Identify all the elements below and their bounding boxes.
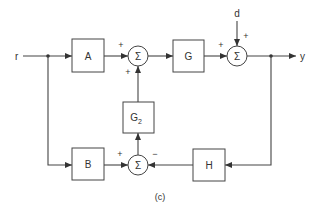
sum3-left-sign: + bbox=[117, 149, 122, 159]
block-a: A bbox=[72, 39, 104, 72]
arrow-to-sum1 bbox=[121, 53, 128, 59]
block-g-label: G bbox=[185, 51, 193, 62]
sum2-top-sign: + bbox=[243, 31, 248, 41]
sum2-symbol: Σ bbox=[234, 51, 240, 62]
summing-junction-1: Σ bbox=[128, 46, 148, 66]
summing-junction-3: Σ bbox=[128, 155, 148, 175]
block-g2: G2 bbox=[123, 102, 154, 133]
sum3-right-sign: − bbox=[152, 149, 157, 159]
arrow-d-to-sum2 bbox=[234, 39, 240, 46]
arrow-to-h bbox=[225, 162, 232, 168]
block-h-label: H bbox=[205, 160, 212, 171]
block-g: G bbox=[173, 40, 204, 72]
block-b-label: B bbox=[85, 159, 92, 170]
arrow-to-sum2 bbox=[220, 53, 227, 59]
figure-caption: (c) bbox=[155, 192, 166, 202]
block-g2-subscript: 2 bbox=[138, 118, 142, 125]
block-h: H bbox=[193, 149, 225, 181]
output-signal-label: y bbox=[300, 51, 305, 62]
disturbance-label: d bbox=[234, 8, 240, 19]
feedback-line-to-h bbox=[225, 56, 271, 165]
sum1-symbol: Σ bbox=[135, 51, 141, 62]
block-diagram: r A + + Σ G + d + Σ y bbox=[0, 0, 321, 216]
arrow-to-g2 bbox=[135, 133, 141, 140]
arrow-to-b bbox=[65, 162, 72, 168]
summing-junction-2: Σ bbox=[227, 46, 247, 66]
arrow-h-to-sum3 bbox=[148, 162, 155, 168]
arrow-g2-to-sum1 bbox=[135, 66, 141, 73]
arrow-to-a bbox=[65, 53, 72, 59]
sum3-symbol: Σ bbox=[135, 160, 141, 171]
block-b: B bbox=[72, 148, 104, 180]
sum2-left-sign: + bbox=[218, 40, 223, 50]
branch-line-to-b bbox=[48, 56, 72, 165]
arrow-to-y bbox=[289, 53, 296, 59]
arrow-to-g bbox=[166, 53, 173, 59]
sum1-bottom-sign: + bbox=[125, 67, 130, 77]
sum1-left-sign: + bbox=[118, 40, 123, 50]
arrow-b-to-sum3 bbox=[121, 162, 128, 168]
input-signal-label: r bbox=[15, 51, 19, 62]
block-a-label: A bbox=[85, 51, 92, 62]
